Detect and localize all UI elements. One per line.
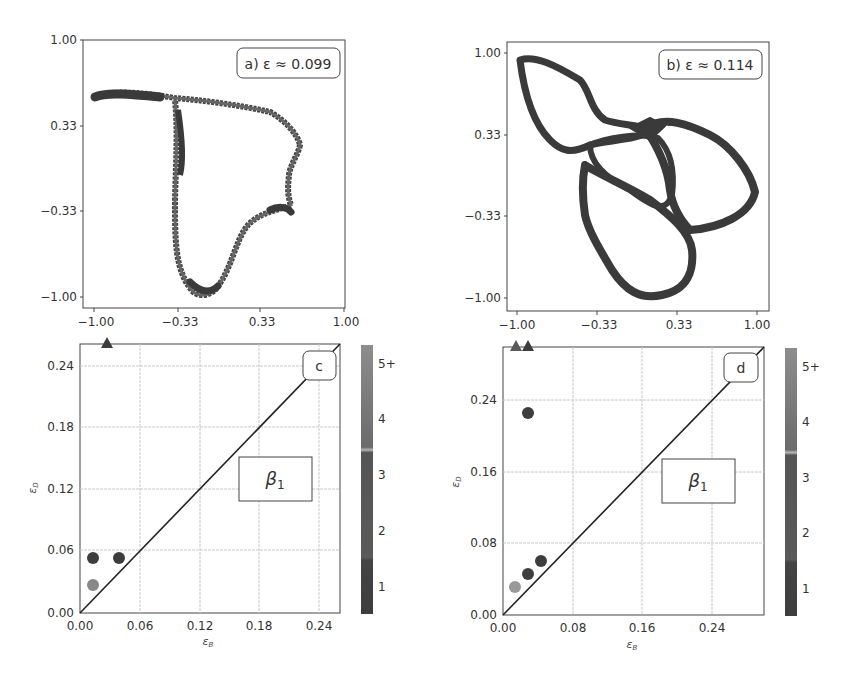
svg-text:−0.33: −0.33 — [162, 315, 199, 329]
svg-text:5+: 5+ — [378, 357, 396, 371]
point-c-2 — [113, 552, 125, 564]
svg-text:0.16: 0.16 — [629, 621, 656, 635]
svg-text:−0.33: −0.33 — [581, 318, 618, 332]
svg-text:2: 2 — [378, 524, 386, 538]
svg-text:0.12: 0.12 — [187, 619, 214, 633]
infinite-point-c — [101, 337, 113, 348]
x-axis-d: 0.00 0.08 0.16 0.24 εB — [490, 621, 726, 652]
svg-text:5+: 5+ — [802, 360, 820, 374]
figure: a) ε ≈ 0.099 1.00 0.33 −0.33 −1.00 −1.00… — [0, 0, 844, 687]
svg-text:−1.00: −1.00 — [40, 290, 77, 304]
infinite-point-d-1 — [510, 340, 522, 351]
point-d-2 — [522, 568, 534, 580]
svg-text:1.00: 1.00 — [333, 315, 360, 329]
svg-text:1.00: 1.00 — [474, 46, 501, 60]
colorbar-c: 5+ 4 3 2 1 — [361, 345, 396, 614]
svg-text:0.00: 0.00 — [490, 621, 517, 635]
point-d-4 — [509, 581, 521, 593]
svg-text:0.24: 0.24 — [306, 619, 333, 633]
epsilon-label-b: b) ε ≈ 0.114 — [666, 57, 753, 73]
epsilon-label-a: a) ε ≈ 0.099 — [245, 56, 332, 72]
svg-text:1: 1 — [378, 580, 386, 594]
svg-text:0.33: 0.33 — [249, 315, 276, 329]
svg-text:3: 3 — [378, 468, 386, 482]
svg-text:0.00: 0.00 — [67, 619, 94, 633]
svg-text:2: 2 — [802, 526, 810, 540]
plot-area-b — [507, 42, 769, 311]
panel-label-c: c — [315, 358, 323, 374]
svg-text:0.18: 0.18 — [246, 619, 273, 633]
svg-text:0.33: 0.33 — [50, 119, 77, 133]
svg-text:0.18: 0.18 — [47, 420, 74, 434]
svg-text:−1.00: −1.00 — [464, 291, 501, 305]
y-label-d: εD — [449, 476, 463, 488]
svg-text:0.24: 0.24 — [470, 393, 497, 407]
plot-area-a — [83, 40, 345, 308]
point-c-3 — [87, 579, 99, 591]
point-d-3 — [535, 555, 547, 567]
svg-text:0.06: 0.06 — [47, 543, 74, 557]
svg-text:1: 1 — [802, 582, 810, 596]
panel-label-d: d — [737, 360, 746, 376]
panel-d: d β1 0.24 0.16 0.08 0.00 εD 0.00 0.08 0.… — [449, 340, 820, 652]
svg-text:0.24: 0.24 — [47, 359, 74, 373]
infinite-point-d-2 — [522, 340, 534, 351]
svg-text:1.00: 1.00 — [50, 33, 77, 47]
svg-text:0.00: 0.00 — [47, 606, 74, 620]
x-label-d: εB — [627, 638, 638, 652]
panel-a: a) ε ≈ 0.099 1.00 0.33 −0.33 −1.00 −1.00… — [40, 33, 359, 329]
panel-c: c β1 0.24 0.18 0.12 0.06 0.00 εD 0.00 0.… — [26, 337, 396, 649]
y-axis-d: 0.24 0.16 0.08 0.00 εD — [449, 393, 497, 622]
svg-text:4: 4 — [802, 415, 810, 429]
point-d-1 — [522, 407, 534, 419]
svg-text:0.24: 0.24 — [699, 621, 726, 635]
svg-text:0.08: 0.08 — [470, 536, 497, 550]
svg-text:0.33: 0.33 — [474, 128, 501, 142]
svg-text:0.08: 0.08 — [560, 621, 587, 635]
svg-text:−0.33: −0.33 — [464, 209, 501, 223]
svg-text:−1.00: −1.00 — [499, 318, 536, 332]
svg-text:0.12: 0.12 — [47, 482, 74, 496]
x-axis-b: −1.00 −0.33 0.33 1.00 — [499, 311, 771, 332]
y-axis-b: 1.00 0.33 −0.33 −1.00 — [464, 46, 507, 305]
y-axis-c: 0.24 0.18 0.12 0.06 0.00 εD — [26, 359, 74, 620]
x-axis-a: −1.00 −0.33 0.33 1.00 — [78, 308, 360, 329]
point-c-1 — [87, 552, 99, 564]
svg-text:1.00: 1.00 — [744, 318, 771, 332]
colorbar-d: 5+ 4 3 2 1 — [785, 348, 820, 616]
x-axis-c: 0.00 0.06 0.12 0.18 0.24 εB — [67, 619, 333, 649]
x-label-c: εB — [203, 635, 214, 649]
svg-text:0.16: 0.16 — [470, 465, 497, 479]
svg-text:0.06: 0.06 — [127, 619, 154, 633]
svg-text:−1.00: −1.00 — [78, 315, 115, 329]
y-axis-a: 1.00 0.33 −0.33 −1.00 — [40, 33, 83, 304]
svg-text:0.00: 0.00 — [470, 608, 497, 622]
svg-text:0.33: 0.33 — [666, 318, 693, 332]
svg-text:4: 4 — [378, 412, 386, 426]
svg-text:−0.33: −0.33 — [40, 204, 77, 218]
svg-text:3: 3 — [802, 471, 810, 485]
panel-b: b) ε ≈ 0.114 1.00 0.33 −0.33 −1.00 −1.00… — [464, 42, 770, 332]
y-label-c: εD — [26, 482, 40, 494]
